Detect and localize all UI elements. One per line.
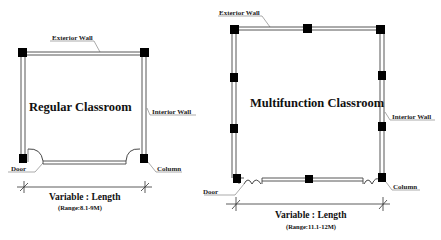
room-title: Multifunction Classroom	[250, 96, 385, 110]
label-exterior-wall: Exterior Wall	[219, 9, 260, 17]
door-right-icon	[126, 149, 140, 161]
label-column: Column	[393, 183, 417, 191]
column-icon	[140, 48, 149, 57]
regular-classroom-plan: Exterior Wall Interior Wall Door Column …	[8, 34, 196, 212]
column-icon	[230, 73, 238, 82]
column-icon	[230, 25, 239, 34]
wall-left	[21, 56, 25, 155]
label-door: Door	[11, 165, 26, 173]
label-column: Column	[157, 165, 181, 173]
wall-left	[232, 32, 236, 178]
door-right-icon	[364, 179, 379, 184]
column-icon	[19, 154, 27, 163]
column-icon	[378, 173, 386, 182]
door-left-icon	[244, 180, 261, 184]
dimension-range: (Range:8.1-9M)	[58, 204, 102, 212]
label-interior-wall: Interior Wall	[392, 113, 431, 121]
column-icon	[305, 175, 313, 183]
leader-exterior-wall	[50, 41, 100, 52]
multifunction-classroom-plan: Exterior Wall Interior Wall Door Column …	[203, 9, 435, 231]
dimension-range: (Range:11.1-12M)	[286, 223, 336, 231]
wall-bottom	[43, 161, 126, 164]
column-icon	[303, 24, 312, 33]
column-icon	[233, 174, 241, 183]
label-interior-wall: Interior Wall	[152, 108, 191, 116]
exterior-wall-top	[24, 52, 143, 55]
room-title: Regular Classroom	[29, 100, 132, 114]
column-icon	[230, 124, 238, 133]
label-door: Door	[203, 188, 218, 196]
floor-plan-diagram: Exterior Wall Interior Wall Door Column …	[0, 0, 441, 240]
door-left-icon	[28, 149, 43, 161]
leader-exterior-wall	[218, 16, 270, 27]
column-icon	[140, 154, 148, 163]
dimension-line	[226, 197, 390, 211]
wall-bottom	[239, 178, 363, 184]
column-icon	[18, 48, 27, 57]
interior-wall-right	[142, 56, 146, 155]
dimension-label: Variable : Length	[275, 210, 347, 220]
column-icon	[378, 71, 386, 80]
dimension-label: Variable : Length	[49, 192, 121, 202]
label-exterior-wall: Exterior Wall	[52, 34, 93, 42]
column-icon	[378, 122, 386, 131]
column-icon	[376, 25, 385, 34]
